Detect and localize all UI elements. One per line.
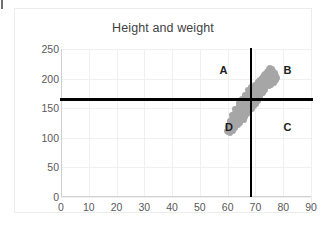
chart-container: Height and weight ABCD 05010015020025001…: [14, 8, 312, 213]
x-axis-tick-label: 60: [222, 201, 234, 213]
x-axis-tick-label: 30: [138, 201, 150, 213]
x-axis-tick-label: 80: [277, 201, 289, 213]
x-axis-tick-label: 20: [111, 201, 123, 213]
corner-artifact: [1, 0, 3, 9]
reference-line-vertical: [250, 48, 252, 197]
scatter-point: [257, 85, 263, 91]
y-axis-tick-label: 50: [47, 161, 59, 173]
quadrant-label-a: A: [220, 64, 228, 76]
x-axis-tick-label: 10: [83, 201, 95, 213]
quadrant-label-b: B: [283, 64, 291, 76]
scatter-series-people: [61, 49, 311, 197]
y-axis-tick-label: 100: [41, 132, 59, 144]
chart-title: Height and weight: [15, 21, 311, 35]
y-axis-tick-label: 200: [41, 73, 59, 85]
x-axis-tick-label: 90: [305, 201, 317, 213]
gridline-vertical: [311, 49, 312, 197]
scatter-point: [241, 108, 247, 114]
y-axis-tick-label: 250: [41, 43, 59, 55]
scatter-point: [232, 106, 238, 112]
scatter-point: [236, 100, 242, 106]
x-axis-tick-label: 50: [194, 201, 206, 213]
reference-line-horizontal: [60, 98, 313, 100]
x-axis-tick-label: 0: [58, 201, 64, 213]
x-axis-tick-label: 40: [166, 201, 178, 213]
y-axis-tick-label: 150: [41, 102, 59, 114]
scatter-point: [272, 78, 278, 84]
quadrant-label-c: C: [283, 121, 291, 133]
x-axis-tick-label: 70: [250, 201, 262, 213]
plot-area: ABCD 0501001502002500102030405060708090: [61, 49, 311, 197]
gridline-horizontal: [61, 197, 311, 198]
quadrant-label-d: D: [225, 121, 233, 133]
